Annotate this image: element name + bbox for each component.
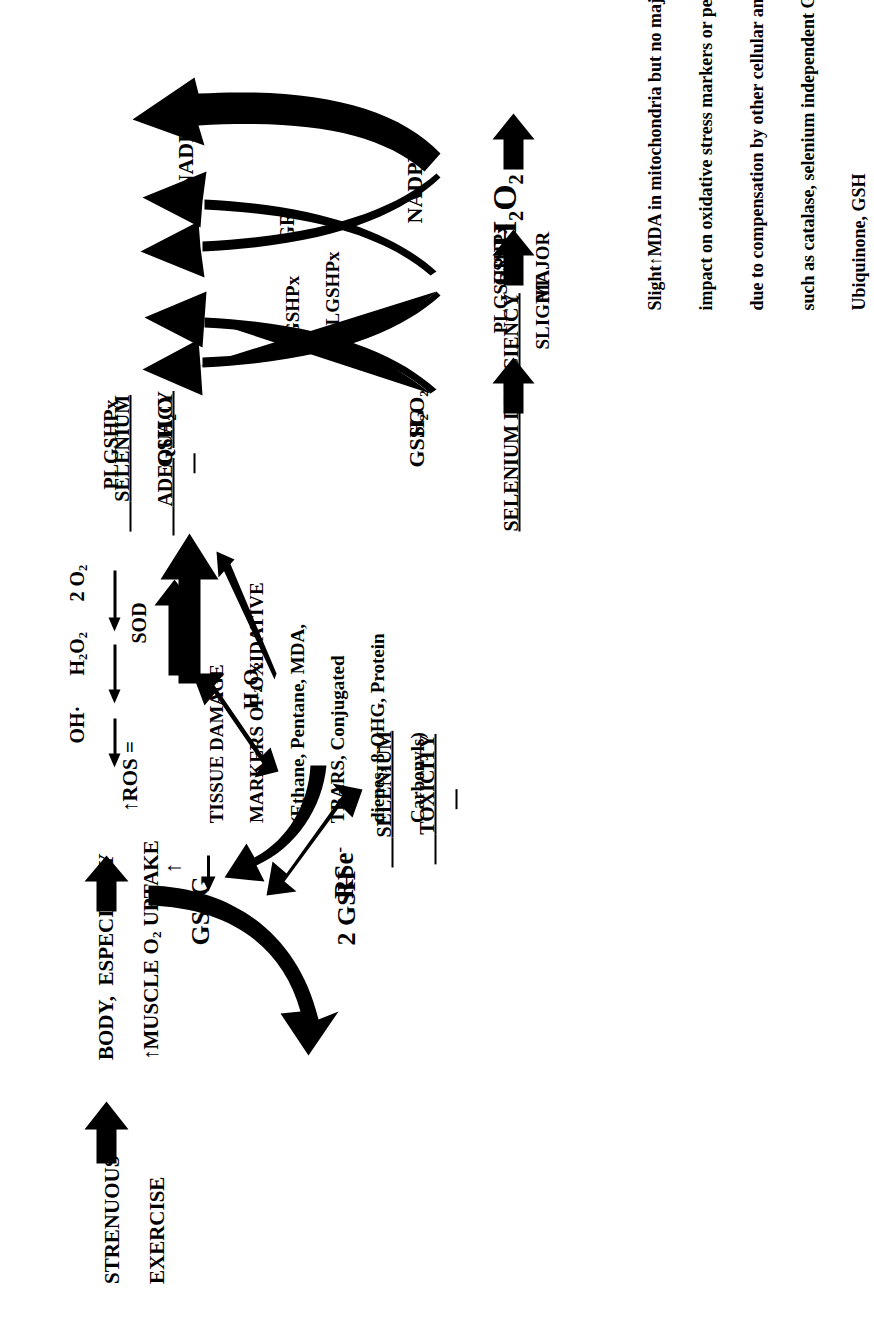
tissue-damage-up-arrow: ↑ — [160, 862, 183, 873]
gshpx-label: GSHPx — [281, 275, 302, 336]
arrow-h2o2-to-deficiency — [216, 551, 276, 679]
se-tox-line-2: TOXICITY — [415, 733, 437, 834]
arrow-deficiency-to-outcome — [492, 113, 534, 169]
two-gsh-label: 2 GSH — [332, 871, 360, 945]
adequacy-gsh-in: GSH — [152, 421, 175, 467]
outcome-line-1: Slight↑MDA in mitochondria but no major — [644, 0, 664, 310]
sod-label: SOD — [128, 602, 149, 643]
ros-feed-arrows — [100, 561, 134, 767]
arrow-exercise-to-body — [84, 1101, 128, 1163]
exercise-line-2: EXERCISE — [144, 1176, 168, 1283]
deficiency-step2-label: MAJOR — [532, 231, 552, 301]
ros-up-arrow-glyph: ↑ — [117, 801, 141, 812]
strenuous-exercise-label: STRENUOUS EXERCISE — [78, 1155, 189, 1315]
deficiency-step2-down-arrow: ↓ — [500, 293, 522, 304]
exercise-line-1: STRENUOUS — [99, 1155, 123, 1283]
deficiency-h2o2-product: H₂O₂ — [486, 174, 522, 247]
outcome-line-4: such as catalase, selenium independent G… — [797, 0, 817, 310]
arrow-gsh-to-gssg — [218, 759, 328, 891]
outcome-caption: Slight↑MDA in mitochondria but no major … — [616, 0, 874, 337]
adequacy-gssg-out: GSSG — [404, 408, 427, 467]
outcome-line-5: Ubiquinone, GSH — [848, 173, 868, 310]
ros-species-oh: OH· — [66, 705, 87, 743]
outcome-line-3: due to compensation by other cellular an… — [746, 0, 766, 310]
outcome-line-2: impact on oxidative stress markers or pe… — [695, 0, 715, 310]
arrow-body-to-ros — [84, 855, 128, 911]
deficiency-step1-down-arrow: ↓ — [500, 341, 522, 352]
arrow-deficiency-step1 — [492, 357, 534, 413]
arrow-h2o2-to-adequacy — [152, 579, 196, 675]
ros-species-2o2: 2 O2 — [66, 564, 89, 601]
gssg-toxicity-label: GSSG — [186, 876, 214, 945]
se-tox-line-1: SELENIUM — [372, 730, 394, 837]
adequacy-enzyme-gr: GR — [276, 211, 297, 241]
adequacy-plgshpx-top-label: PLGSHPx — [100, 399, 121, 489]
arc-nadp-recycle — [132, 77, 448, 171]
ros-species-h2o2: H2O2 — [66, 631, 89, 675]
outcome-up-arrow-glyph: ↑ — [644, 256, 664, 265]
